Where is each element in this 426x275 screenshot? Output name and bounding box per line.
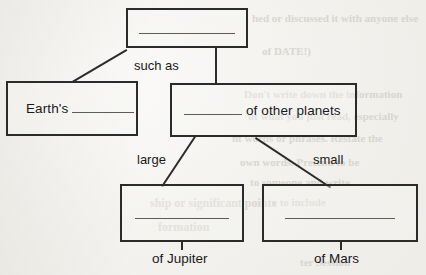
node-other-planets-text: of other planets <box>184 103 341 118</box>
blank-line-mars[interactable] <box>285 208 395 219</box>
node-earths-text: Earth's <box>26 101 134 116</box>
node-mars[interactable] <box>262 184 418 242</box>
edge-root-to-other-planets <box>215 47 217 83</box>
edge-mars-to-caption <box>340 242 342 250</box>
node-root-text <box>139 23 235 34</box>
node-jupiter-text <box>135 208 229 219</box>
blank-line-other-planets[interactable] <box>184 104 242 115</box>
edge-jupiter-to-caption <box>181 242 183 250</box>
node-mars-text <box>285 208 395 219</box>
blank-line-earths[interactable] <box>72 102 134 113</box>
node-jupiter[interactable] <box>120 184 244 242</box>
edge-root-to-earths <box>72 49 127 83</box>
ghost-text-line: hed or discussed it with anyone else <box>252 12 418 24</box>
blank-line-root[interactable] <box>139 23 235 34</box>
worksheet-page: hed or discussed it with anyone else of … <box>0 0 426 275</box>
edge-label-small: small <box>313 152 343 167</box>
caption-jupiter: of Jupiter <box>152 251 208 266</box>
ghost-text-line: of DATE!) <box>262 45 311 57</box>
node-other-planets[interactable]: of other planets <box>170 83 357 137</box>
edge-label-such-as: such as <box>134 58 179 73</box>
node-earths-label: Earth's <box>26 101 68 116</box>
blank-line-jupiter[interactable] <box>135 208 229 219</box>
node-other-planets-label: of other planets <box>246 103 341 118</box>
edge-other-planets-to-jupiter <box>161 136 196 187</box>
node-earths[interactable]: Earth's <box>6 81 138 136</box>
edge-label-large: large <box>137 152 166 167</box>
node-root[interactable] <box>126 8 248 48</box>
caption-mars: of Mars <box>314 251 359 266</box>
